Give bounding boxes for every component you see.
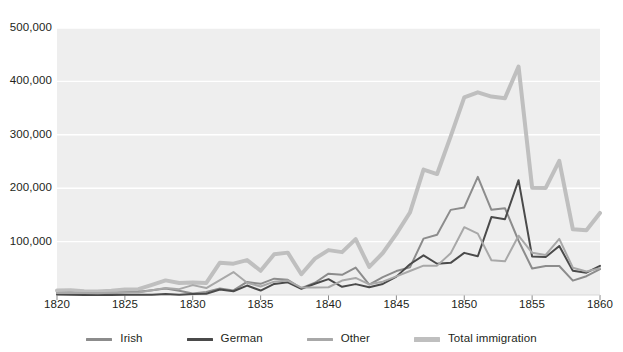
x-tick-label: 1830 <box>180 299 206 311</box>
legend-color-swatch <box>86 338 112 341</box>
legend-item[interactable]: Irish <box>86 333 142 345</box>
x-tick-label: 1850 <box>451 299 477 311</box>
legend-item-label: Total immigration <box>448 333 537 345</box>
x-tick-label: 1820 <box>44 299 70 311</box>
x-tick-label: 1860 <box>587 299 613 311</box>
chart-canvas <box>0 0 623 320</box>
legend-color-swatch <box>307 338 333 341</box>
legend-color-swatch <box>414 337 440 342</box>
chart-legend: IrishGermanOtherTotal immigration <box>0 326 623 352</box>
legend-item[interactable]: German <box>187 333 263 345</box>
y-tick-label: 200,000 <box>10 182 52 194</box>
y-tick-label: 400,000 <box>10 76 52 88</box>
plot-area <box>0 0 623 320</box>
y-tick-label: 100,000 <box>10 236 52 248</box>
x-tick-label: 1845 <box>383 299 409 311</box>
x-tick-label: 1835 <box>248 299 274 311</box>
legend-item[interactable]: Total immigration <box>414 333 537 345</box>
legend-item-label: Other <box>341 333 370 345</box>
legend-item-label: German <box>221 333 263 345</box>
legend-color-swatch <box>187 338 213 341</box>
x-tick-label: 1855 <box>519 299 545 311</box>
immigration-line-chart: 100,000200,000300,000400,000500,000 1820… <box>0 0 623 352</box>
y-tick-label: 500,000 <box>10 22 52 34</box>
x-tick-label: 1825 <box>112 299 138 311</box>
legend-item-label: Irish <box>120 333 142 345</box>
x-tick-label: 1840 <box>316 299 342 311</box>
y-axis-labels: 100,000200,000300,000400,000500,000 <box>0 0 52 320</box>
y-tick-label: 300,000 <box>10 129 52 141</box>
legend-item[interactable]: Other <box>307 333 370 345</box>
